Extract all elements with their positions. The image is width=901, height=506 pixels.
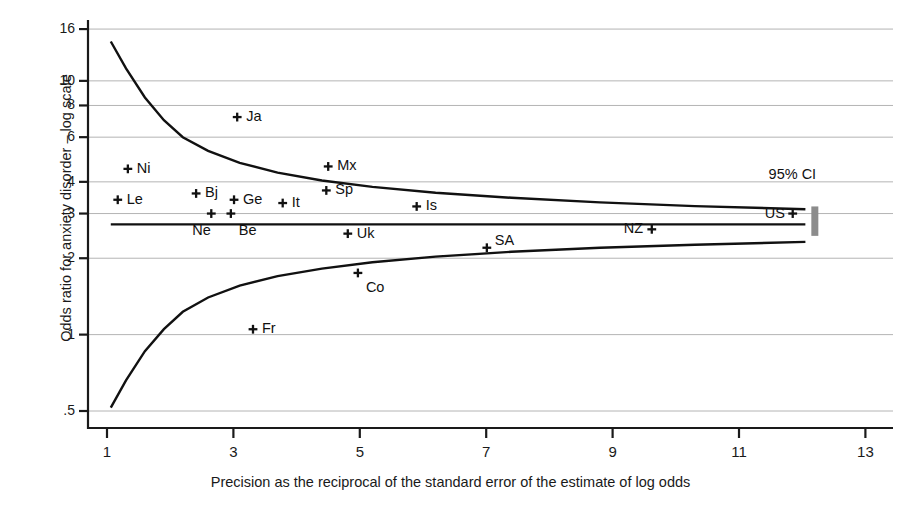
marker-Be: [226, 209, 235, 218]
marker-Bj: [192, 189, 201, 198]
y-tick-label-.5: .5: [41, 403, 75, 417]
marker-Mx: [324, 162, 333, 171]
point-label-Bj: Bj: [205, 185, 218, 199]
plot-canvas: [0, 0, 901, 506]
funnel-plot-figure: Odds ratio for anxiety disorder – log sc…: [0, 0, 901, 506]
funnel-lower-curve: [111, 242, 806, 408]
y-tick-label-10: 10: [41, 73, 75, 87]
point-label-Ni: Ni: [137, 161, 151, 175]
y-tick-label-1: 1: [41, 327, 75, 341]
marker-It: [278, 199, 287, 208]
y-tick-label-4: 4: [41, 174, 75, 188]
marker-Sp: [322, 186, 331, 195]
y-tick-label-3: 3: [41, 206, 75, 220]
point-label-Fr: Fr: [262, 321, 276, 335]
point-label-NZ: NZ: [624, 221, 643, 235]
point-label-Ge: Ge: [243, 192, 262, 206]
marker-Co: [354, 269, 363, 278]
marker-Fr: [249, 325, 258, 334]
x-tick-label-11: 11: [726, 444, 752, 459]
y-tick-label-16: 16: [41, 21, 75, 35]
point-label-US: US: [765, 206, 785, 220]
x-tick-label-1: 1: [94, 444, 120, 459]
point-label-Ne: Ne: [192, 223, 211, 237]
ci-annotation-label: 95% CI: [769, 166, 817, 182]
point-label-Ja: Ja: [246, 109, 261, 123]
y-tick-label-8: 8: [41, 97, 75, 111]
marker-NZ: [647, 225, 656, 234]
x-tick-label-13: 13: [852, 444, 878, 459]
x-tick-label-7: 7: [473, 444, 499, 459]
marker-Is: [412, 202, 421, 211]
marker-SA: [482, 243, 491, 252]
point-label-SA: SA: [495, 233, 514, 247]
marker-Ja: [233, 113, 242, 122]
ci-reference-bar: [811, 206, 818, 235]
x-tick-label-9: 9: [600, 444, 626, 459]
marker-Ne: [207, 209, 216, 218]
marker-Le: [113, 195, 122, 204]
point-label-Uk: Uk: [357, 226, 375, 240]
point-label-Is: Is: [426, 198, 437, 212]
x-tick-label-5: 5: [347, 444, 373, 459]
point-label-Le: Le: [127, 192, 143, 206]
marker-Ni: [123, 164, 132, 173]
marker-Ge: [230, 195, 239, 204]
marker-Uk: [343, 229, 352, 238]
point-label-Mx: Mx: [337, 158, 356, 172]
point-label-It: It: [292, 195, 300, 209]
point-label-Be: Be: [239, 223, 257, 237]
y-tick-label-2: 2: [41, 250, 75, 264]
point-label-Sp: Sp: [335, 182, 353, 196]
point-label-Co: Co: [366, 280, 385, 294]
marker-US: [788, 209, 797, 218]
x-tick-label-3: 3: [220, 444, 246, 459]
ci-bar-rect: [811, 206, 818, 235]
y-tick-label-6: 6: [41, 129, 75, 143]
